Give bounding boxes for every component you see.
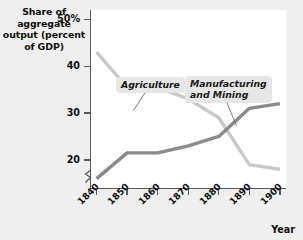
x-axis-title: Year — [271, 224, 295, 235]
leader-line-manufacturing — [227, 102, 237, 127]
series-line-agriculture — [97, 52, 280, 169]
chart-plot — [0, 0, 303, 240]
chart-figure: Share of aggregate output (percent of GD… — [0, 0, 303, 240]
series-label-manufacturing: Manufacturing and Mining — [185, 76, 272, 103]
series-label-agriculture: Agriculture — [116, 77, 185, 93]
series-line-manufacturing-and-mining — [97, 104, 280, 179]
leader-line-agriculture — [134, 91, 147, 111]
